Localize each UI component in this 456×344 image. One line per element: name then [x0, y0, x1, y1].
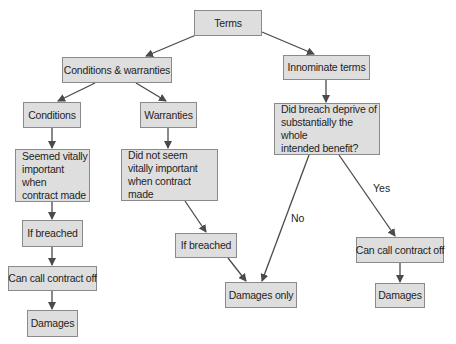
- edge-cw-to-warranties: [136, 83, 166, 101]
- edge-cw-to-conditions: [58, 83, 95, 101]
- edge-terms-to-conditions-warranties: [146, 35, 196, 56]
- node-if-breached-warranties: If breached: [175, 233, 237, 258]
- edge-terms-to-innominate-terms: [262, 32, 314, 54]
- node-conditions: Conditions: [23, 102, 81, 128]
- edge-did-breach-to-call-off-yes: [339, 155, 395, 236]
- edge-label-no: No: [291, 212, 304, 224]
- node-did-breach-deprive: Did breach deprive of substantially the …: [274, 103, 380, 155]
- node-damages-only: Damages only: [225, 282, 297, 308]
- node-seemed-vitally-important: Seemed vitally important when contract m…: [15, 149, 90, 202]
- node-damages-innominate: Damages: [375, 283, 425, 308]
- node-terms: Terms: [194, 10, 262, 36]
- node-can-call-contract-off-innominate: Can call contract off: [356, 237, 444, 263]
- edge-label-yes: Yes: [373, 182, 390, 194]
- edge-did-not-seem-to-if-breached: [185, 201, 206, 232]
- node-can-call-contract-off-conditions: Can call contract off: [8, 266, 97, 291]
- node-conditions-warranties: Conditions & warranties: [62, 57, 172, 83]
- node-did-not-seem-vitally-important: Did not seem vitally important when cont…: [121, 149, 218, 201]
- node-innominate-terms: Innominate terms: [283, 55, 370, 80]
- node-damages-conditions: Damages: [27, 310, 78, 337]
- node-if-breached-conditions: If breached: [22, 220, 83, 247]
- node-warranties: Warranties: [140, 102, 197, 128]
- diagram-canvas: Terms Conditions & warranties Innominate…: [0, 0, 456, 344]
- edge-if-breached-to-damages-only: [228, 258, 246, 281]
